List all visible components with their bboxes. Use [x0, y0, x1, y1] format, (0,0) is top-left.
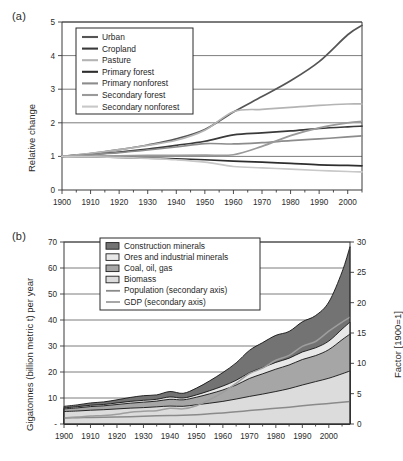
panel-b-secondary-y-axis-title: Factor [1900=1] [392, 311, 403, 378]
svg-text:Cropland: Cropland [102, 44, 136, 54]
svg-text:30: 30 [357, 238, 367, 247]
panel-b: (b) Gigatonnes (billion metric t) per ye… [0, 228, 403, 461]
svg-text:60: 60 [48, 264, 58, 273]
svg-text:30: 30 [48, 342, 58, 351]
svg-text:Biomass: Biomass [124, 274, 156, 284]
panel-a-y-axis-title: Relative change [26, 104, 37, 172]
svg-text:2000: 2000 [339, 198, 358, 207]
svg-text:20: 20 [357, 299, 367, 308]
panel-a-plot: 0123451900191019201930194019501960197019… [0, 0, 403, 228]
svg-text:1930: 1930 [134, 432, 153, 441]
panel-b-y-axis-title: Gigatonnes (billion metric t) per year [24, 278, 35, 431]
svg-text:1940: 1940 [161, 432, 180, 441]
svg-text:Population (secondary axis): Population (secondary axis) [124, 285, 228, 295]
svg-text:40: 40 [48, 316, 58, 325]
svg-text:1910: 1910 [81, 198, 100, 207]
svg-text:1930: 1930 [139, 198, 158, 207]
svg-text:2: 2 [50, 119, 55, 128]
svg-text:0: 0 [357, 420, 362, 429]
svg-text:1910: 1910 [81, 432, 100, 441]
panel-b-plot: -102030405060700510152025301900191019201… [0, 228, 403, 461]
svg-text:25: 25 [357, 268, 367, 277]
svg-text:3: 3 [50, 85, 55, 94]
svg-text:15: 15 [357, 329, 367, 338]
svg-text:2000: 2000 [320, 432, 339, 441]
svg-text:1990: 1990 [310, 198, 329, 207]
svg-text:1920: 1920 [108, 432, 127, 441]
svg-text:1920: 1920 [110, 198, 129, 207]
svg-text:Construction minerals: Construction minerals [124, 241, 205, 251]
svg-text:20: 20 [48, 368, 58, 377]
panel-b-label: (b) [12, 230, 26, 242]
svg-text:Pasture: Pasture [102, 55, 131, 65]
svg-text:1940: 1940 [167, 198, 186, 207]
figure-container: (a) Relative change 01234519001910192019… [0, 0, 403, 461]
svg-text:GDP (secondary axis): GDP (secondary axis) [124, 297, 206, 307]
svg-text:70: 70 [48, 238, 58, 247]
svg-text:10: 10 [48, 394, 58, 403]
svg-text:1: 1 [50, 152, 55, 161]
svg-text:5: 5 [50, 18, 55, 27]
panel-a: (a) Relative change 01234519001910192019… [0, 0, 403, 228]
svg-text:50: 50 [48, 290, 58, 299]
svg-text:-: - [54, 420, 57, 429]
svg-text:Ores and industrial minerals: Ores and industrial minerals [124, 252, 228, 262]
svg-text:10: 10 [357, 359, 367, 368]
svg-text:1950: 1950 [187, 432, 206, 441]
svg-text:1900: 1900 [55, 432, 74, 441]
svg-text:1990: 1990 [293, 432, 312, 441]
svg-text:1980: 1980 [281, 198, 300, 207]
panel-a-label: (a) [12, 10, 26, 22]
svg-text:Urban: Urban [102, 32, 125, 42]
svg-text:Coal, oil, gas: Coal, oil, gas [124, 263, 172, 273]
svg-text:1980: 1980 [267, 432, 286, 441]
svg-text:Secondary nonforest: Secondary nonforest [102, 102, 180, 112]
svg-text:4: 4 [50, 52, 55, 61]
svg-text:0: 0 [50, 186, 55, 195]
svg-text:1970: 1970 [240, 432, 259, 441]
svg-text:1950: 1950 [196, 198, 215, 207]
svg-text:1960: 1960 [224, 198, 243, 207]
svg-text:1960: 1960 [214, 432, 233, 441]
svg-text:5: 5 [357, 390, 362, 399]
svg-text:1970: 1970 [253, 198, 272, 207]
svg-text:Secondary forest: Secondary forest [102, 90, 166, 100]
svg-text:1900: 1900 [53, 198, 72, 207]
svg-text:Primary forest: Primary forest [102, 67, 155, 77]
svg-text:Primary nonforest: Primary nonforest [102, 78, 169, 88]
